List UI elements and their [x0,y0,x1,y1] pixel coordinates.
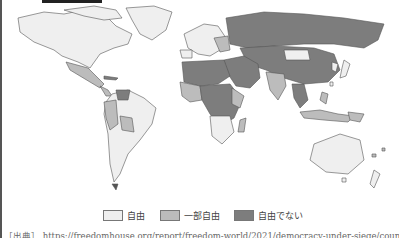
region-australia [310,134,364,174]
region-iberia [180,50,192,58]
legend-label-partly-free: 一部自由 [184,209,220,222]
region-tasmania [342,178,346,182]
region-indonesia [300,110,354,122]
region-cuba [104,76,118,80]
region-southeast-asia [292,84,308,108]
header-bar [42,0,102,3]
region-tierra-del-fuego [112,184,118,190]
region-mongolia [284,50,310,60]
world-map [4,4,399,202]
legend-item-free: 自由 [103,209,145,221]
region-taiwan [330,82,333,86]
region-philippines [320,92,328,104]
legend-item-not-free: 自由でない [234,209,303,221]
region-venezuela [116,90,130,100]
map-legend: 自由 一部自由 自由でない [0,209,399,223]
region-madagascar [238,118,246,132]
region-africa-north [182,60,230,86]
legend-label-not-free: 自由でない [258,209,303,222]
region-papua [348,112,364,122]
swatch-not-free [234,210,254,221]
region-pacific-islands [372,148,385,157]
region-japan [340,60,350,78]
region-africa-east [232,88,244,108]
region-central-america [100,86,112,96]
region-india [266,72,286,100]
region-russia [226,12,384,48]
region-greenland [126,6,172,40]
region-new-zealand [370,170,380,188]
swatch-free [103,210,123,221]
legend-item-partly-free: 一部自由 [160,209,220,221]
region-mexico [66,62,104,88]
region-africa-south [210,116,234,144]
region-bolivia-paraguay [120,116,134,132]
legend-label-free: 自由 [127,209,145,222]
swatch-partly-free [160,210,180,221]
source-citation: ［出典］ https://freedomhouse.org/report/fre… [4,229,399,238]
